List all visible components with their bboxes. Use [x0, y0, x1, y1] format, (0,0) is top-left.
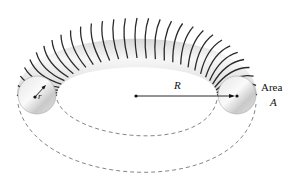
area-word-label: Area [261, 82, 282, 93]
minor-radius-label: r [38, 92, 42, 101]
major-radius-label: R [174, 80, 181, 91]
area-symbol-label: A [270, 97, 277, 108]
inner-dashed-path [57, 100, 217, 136]
outer-dashed-path [18, 104, 256, 172]
toroid-figure [0, 0, 296, 188]
toroid-diagram: R r Area A [0, 0, 296, 188]
